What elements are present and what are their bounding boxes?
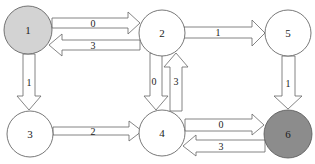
- edge-label-3-to-4: 2: [91, 126, 96, 137]
- edge-4-to-6: 0: [185, 114, 264, 135]
- edge-label-5-to-6: 1: [286, 78, 291, 89]
- edge-2-to-5: 1: [184, 20, 265, 46]
- node-5[interactable]: 5: [265, 10, 311, 56]
- node-3[interactable]: 3: [7, 111, 53, 157]
- edge-label-2-to-1: 3: [91, 40, 96, 51]
- edge-3-to-4: 2: [53, 121, 142, 141]
- edge-label-6-to-4: 3: [219, 141, 224, 152]
- edge-label-4-to-6: 0: [219, 119, 224, 130]
- edge-label-1-to-2: 0: [91, 18, 96, 29]
- node-1-label: 1: [25, 24, 31, 36]
- edge-1-to-3: 1: [17, 54, 41, 110]
- edge-6-to-4: 3: [183, 135, 265, 156]
- node-4[interactable]: 4: [139, 110, 185, 156]
- node-2-label: 2: [159, 27, 165, 39]
- edge-label-2-to-4: 0: [152, 76, 157, 87]
- edge-label-2-to-5: 1: [216, 27, 221, 38]
- edge-2-to-4: 0: [144, 53, 168, 110]
- node-6-label: 6: [285, 128, 291, 140]
- edge-2-to-1: 3: [49, 34, 140, 56]
- edge-label-4-to-2: 3: [174, 76, 179, 87]
- node-4-label: 4: [159, 127, 165, 139]
- node-2[interactable]: 2: [139, 10, 185, 56]
- node-5-label: 5: [285, 27, 291, 39]
- edge-1-to-2: 0: [52, 12, 140, 34]
- node-6[interactable]: 6: [264, 110, 312, 158]
- node-1[interactable]: 1: [4, 6, 52, 54]
- edge-5-to-6: 1: [274, 56, 302, 109]
- node-3-label: 3: [27, 128, 33, 140]
- edge-4-to-2: 3: [164, 53, 188, 111]
- edge-label-1-to-3: 1: [27, 77, 32, 88]
- graph-canvas: 0 3 1 1 0 3 1 2 0 3: [0, 0, 315, 164]
